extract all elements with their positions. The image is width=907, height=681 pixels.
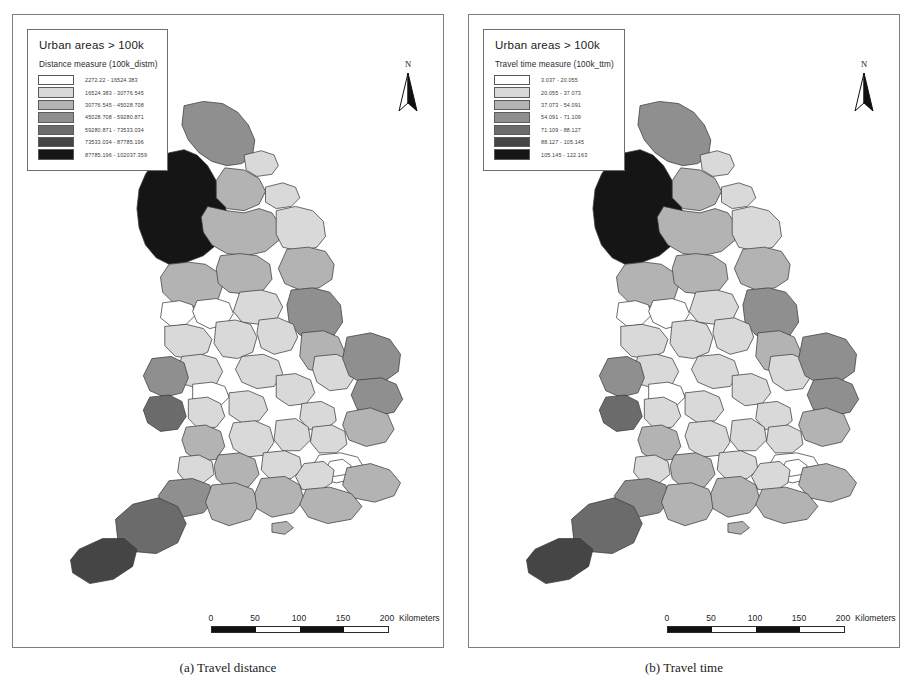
legend-b: Urban areas > 100k Travel time measure (… xyxy=(483,29,625,171)
scalebar-a-bar xyxy=(211,626,389,633)
legend-swatch xyxy=(494,87,530,97)
legend-swatch xyxy=(38,100,74,110)
scalebar-a: 0 50 100 150 200 Kilometers xyxy=(209,613,419,633)
scalebar-tick: 200 xyxy=(380,613,394,623)
scalebar-tick: 50 xyxy=(250,613,260,623)
legend-swatch-label: 3.037 - 20.055 xyxy=(541,77,578,83)
legend-swatch-label: 37.073 - 54.091 xyxy=(541,102,581,108)
legend-item: 87785.196 - 102037.359 xyxy=(38,148,157,160)
map-district-cornwall xyxy=(71,539,137,584)
legend-item: 2272.22 - 16524.383 xyxy=(38,74,157,86)
map-district-northamptonshire xyxy=(732,374,771,406)
scalebar-segment xyxy=(212,627,256,632)
map-district-nottinghamshire xyxy=(713,318,754,354)
legend-a: Urban areas > 100k Distance measure (100… xyxy=(27,29,168,171)
legend-swatch-label: 45028.708 - 59280.871 xyxy=(85,114,144,120)
scalebar-tick: 0 xyxy=(209,613,214,623)
legend-swatch xyxy=(494,112,530,122)
scalebar-segment xyxy=(344,627,388,632)
scalebar-segment xyxy=(712,627,756,632)
map-district-hertfordshire xyxy=(311,425,347,453)
north-arrow-a: N xyxy=(395,59,421,115)
legend-swatch-label: 105.145 - 122.163 xyxy=(541,152,587,158)
scalebar-units: Kilometers xyxy=(399,613,440,623)
map-district-oxfordshire xyxy=(685,421,730,457)
legend-swatch-label: 71.109 - 88.127 xyxy=(541,127,581,133)
scalebar-tick: 200 xyxy=(836,613,850,623)
map-district-n-yorkshire-east xyxy=(276,206,325,251)
legend-swatch xyxy=(494,125,530,135)
legend-item: 54.091 - 71.109 xyxy=(494,111,614,123)
map-district-n-yorkshire-east xyxy=(732,206,781,251)
map-district-warwickshire xyxy=(685,391,724,423)
legend-swatch xyxy=(494,149,530,159)
scalebar-segment xyxy=(300,627,344,632)
legend-item: 3.037 - 20.055 xyxy=(494,74,614,86)
scalebar-segment xyxy=(256,627,300,632)
map-district-merseyside xyxy=(617,301,651,327)
legend-b-rows: 3.037 - 20.055 20.055 - 37.073 37.073 - … xyxy=(494,74,614,161)
legend-swatch-label: 87785.196 - 102037.359 xyxy=(85,152,147,158)
legend-swatch xyxy=(38,137,74,147)
legend-swatch xyxy=(38,125,74,135)
legend-swatch-label: 73533.034 - 87785.196 xyxy=(85,139,144,145)
map-district-herefordshire xyxy=(143,395,186,431)
legend-item: 16524.383 - 30776.545 xyxy=(38,86,157,98)
map-district-n-yorkshire-west xyxy=(201,206,280,255)
map-district-humberside xyxy=(278,247,334,290)
legend-item: 20.055 - 37.073 xyxy=(494,86,614,98)
scalebar-segment xyxy=(668,627,712,632)
map-district-nottinghamshire xyxy=(257,318,298,354)
scalebar-tick: 150 xyxy=(792,613,806,623)
legend-b-title: Urban areas > 100k xyxy=(495,39,614,51)
north-arrow-label: N xyxy=(851,59,877,69)
caption-b: (b) Travel time xyxy=(468,660,900,676)
map-district-herefordshire xyxy=(599,395,642,431)
scalebar-tick: 0 xyxy=(665,613,670,623)
map-district-isle-of-wight xyxy=(728,521,749,534)
legend-item: 59280.871 - 73533.034 xyxy=(38,124,157,136)
map-district-cornwall xyxy=(527,539,593,584)
legend-swatch-label: 59280.871 - 73533.034 xyxy=(85,127,144,133)
map-district-hampshire xyxy=(711,476,760,517)
map-district-leicestershire xyxy=(236,354,283,388)
legend-swatch-label: 2272.22 - 16524.383 xyxy=(85,77,138,83)
map-district-dorset xyxy=(206,483,260,526)
map-district-n-yorkshire-west xyxy=(657,206,736,255)
legend-item: 37.073 - 54.091 xyxy=(494,99,614,111)
map-district-derbyshire xyxy=(214,320,257,359)
scalebar-segment xyxy=(756,627,800,632)
scalebar-units: Kilometers xyxy=(855,613,896,623)
map-district-isle-of-wight xyxy=(272,521,293,534)
map-district-teesside xyxy=(266,183,300,209)
legend-swatch xyxy=(38,149,74,159)
map-district-shropshire xyxy=(599,356,644,397)
legend-item: 30776.545 - 45028.708 xyxy=(38,99,157,111)
map-district-hertfordshire xyxy=(767,425,803,453)
legend-swatch xyxy=(38,75,74,85)
map-district-norfolk xyxy=(343,333,401,384)
legend-item: 105.145 - 122.163 xyxy=(494,148,614,160)
legend-swatch xyxy=(494,137,530,147)
legend-swatch xyxy=(494,75,530,85)
map-district-teesside xyxy=(722,183,756,209)
map-district-hampshire xyxy=(255,476,304,517)
map-district-derbyshire xyxy=(670,320,713,359)
map-district-essex xyxy=(343,408,394,447)
north-arrow-b: N xyxy=(851,59,877,115)
map-panel-b: Urban areas > 100k Travel time measure (… xyxy=(468,14,900,648)
map-district-w-yorkshire xyxy=(216,254,272,295)
legend-a-title: Urban areas > 100k xyxy=(39,39,157,51)
north-arrow-icon xyxy=(851,71,877,113)
map-district-cheshire xyxy=(621,324,668,358)
scalebar-b-bar xyxy=(667,626,845,633)
map-district-humberside xyxy=(734,247,790,290)
legend-item: 71.109 - 88.127 xyxy=(494,124,614,136)
scalebar-tick: 50 xyxy=(706,613,716,623)
map-district-norfolk xyxy=(799,333,857,384)
map-panel-a: Urban areas > 100k Distance measure (100… xyxy=(12,14,444,648)
map-district-northamptonshire xyxy=(276,374,315,406)
map-district-essex xyxy=(799,408,850,447)
map-district-merseyside xyxy=(161,301,195,327)
scalebar-segment xyxy=(800,627,844,632)
